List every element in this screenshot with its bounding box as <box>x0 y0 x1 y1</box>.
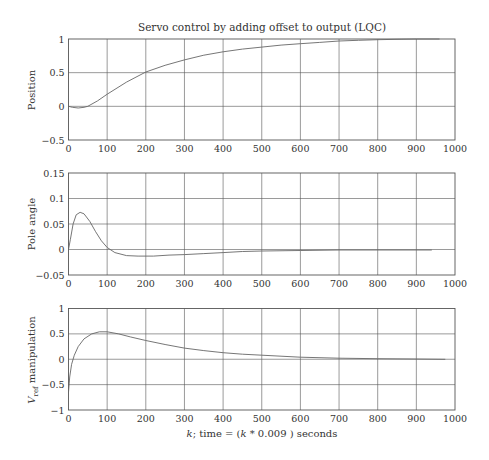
x-tick-label: 600 <box>291 143 309 154</box>
x-tick-label: 100 <box>98 143 116 154</box>
y-tick-label: −0.5 <box>41 379 64 390</box>
series-line <box>69 39 440 108</box>
x-tick-label: 300 <box>175 143 193 154</box>
ylabel-vref: Vref manipulation <box>26 316 40 404</box>
x-tick-label: 500 <box>253 413 271 424</box>
x-tick-label: 0 <box>65 278 71 289</box>
x-tick-label: 700 <box>330 143 348 154</box>
x-tick-label: 900 <box>407 278 425 289</box>
x-tick-label: 300 <box>175 413 193 424</box>
x-tick-label: 200 <box>137 413 155 424</box>
vref-plot: 01002003004005006007008009001000−1−0.500… <box>41 303 467 424</box>
y-tick-label: −1 <box>50 405 64 416</box>
x-tick-label: 800 <box>369 143 387 154</box>
x-tick-label: 400 <box>214 413 232 424</box>
y-tick-label: 0.15 <box>43 168 64 179</box>
ylabel-vref-tail: manipulation <box>26 316 37 387</box>
x-tick-label: 900 <box>407 413 425 424</box>
y-tick-label: −0.5 <box>41 135 64 146</box>
y-tick-label: 0.5 <box>49 67 64 78</box>
ylabel-pole-angle: Pole angle <box>26 198 37 251</box>
y-tick-label: 0.1 <box>49 193 64 204</box>
x-tick-label: 600 <box>291 413 309 424</box>
y-tick-label: 0 <box>58 244 64 255</box>
x-tick-label: 700 <box>330 413 348 424</box>
y-tick-label: 1 <box>58 303 64 314</box>
x-tick-label: 800 <box>369 413 387 424</box>
y-tick-label: 0.5 <box>49 328 64 339</box>
x-tick-label: 200 <box>137 278 155 289</box>
x-tick-label: 100 <box>98 278 116 289</box>
x-tick-label: 400 <box>214 278 232 289</box>
x-tick-label: 500 <box>253 278 271 289</box>
x-tick-label: 1000 <box>443 143 467 154</box>
x-tick-label: 0 <box>65 143 71 154</box>
x-tick-label: 800 <box>369 278 387 289</box>
x-tick-label: 400 <box>214 143 232 154</box>
x-tick-label: 1000 <box>443 278 467 289</box>
figure: Servo control by adding offset to output… <box>0 0 489 460</box>
y-tick-label: 0.05 <box>43 219 64 230</box>
x-tick-label: 900 <box>407 143 425 154</box>
y-tick-label: 1 <box>58 34 64 45</box>
x-tick-label: 600 <box>291 278 309 289</box>
chart-title: Servo control by adding offset to output… <box>138 21 386 33</box>
x-tick-label: 500 <box>253 143 271 154</box>
y-tick-label: 0 <box>58 101 64 112</box>
y-tick-label: 0 <box>58 354 64 365</box>
x-tick-label: 100 <box>98 413 116 424</box>
xlabel: k; time = (k * 0.009 ) seconds <box>187 428 338 439</box>
x-tick-label: 300 <box>175 278 193 289</box>
ylabel-position: Position <box>26 69 37 110</box>
x-tick-label: 700 <box>330 278 348 289</box>
series-line <box>69 332 446 392</box>
y-tick-label: −0.05 <box>35 270 64 281</box>
position-plot: 01002003004005006007008009001000−0.500.5… <box>41 34 467 155</box>
x-tick-label: 0 <box>65 413 71 424</box>
x-tick-label: 1000 <box>443 413 467 424</box>
x-tick-label: 200 <box>137 143 155 154</box>
pole-angle-plot: 01002003004005006007008009001000−0.0500.… <box>35 168 467 290</box>
